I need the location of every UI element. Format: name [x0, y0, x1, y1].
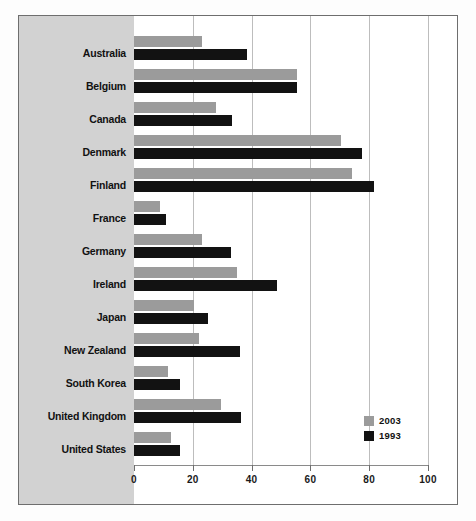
bar-group	[134, 267, 457, 291]
bar-australia-2003[interactable]	[134, 36, 202, 47]
category-label-germany: Germany	[82, 245, 126, 257]
bar-united-states-1993[interactable]	[134, 445, 180, 456]
bar-group	[134, 234, 457, 258]
bar-south-korea-2003[interactable]	[134, 366, 168, 377]
bar-group	[134, 201, 457, 225]
bar-united-states-2003[interactable]	[134, 432, 171, 443]
category-label-new-zealand: New Zealand	[64, 344, 126, 356]
x-tick-label-100: 100	[419, 474, 437, 485]
x-axis-baseline	[134, 465, 428, 466]
legend-label-1993: 1993	[379, 430, 401, 441]
bar-ireland-1993[interactable]	[134, 280, 277, 291]
x-tick-80	[369, 465, 370, 471]
x-tick-label-60: 60	[305, 474, 317, 485]
bar-france-1993[interactable]	[134, 214, 166, 225]
bar-finland-2003[interactable]	[134, 168, 352, 179]
x-tick-label-0: 0	[131, 474, 137, 485]
bar-denmark-1993[interactable]	[134, 148, 362, 159]
bar-belgium-1993[interactable]	[134, 82, 297, 93]
bar-new-zealand-2003[interactable]	[134, 333, 199, 344]
bar-group	[134, 69, 457, 93]
category-label-japan: Japan	[97, 311, 126, 323]
bar-group	[134, 333, 457, 357]
legend-swatch-2003-icon	[364, 416, 374, 426]
bar-united-kingdom-1993[interactable]	[134, 412, 241, 423]
bar-australia-1993[interactable]	[134, 49, 247, 60]
x-tick-label-20: 20	[187, 474, 199, 485]
bar-south-korea-1993[interactable]	[134, 379, 180, 390]
bar-germany-2003[interactable]	[134, 234, 202, 245]
category-label-canada: Canada	[89, 113, 126, 125]
bar-ireland-2003[interactable]	[134, 267, 237, 278]
chart-figure: AustraliaBelgiumCanadaDenmarkFinlandFran…	[0, 0, 476, 521]
bar-group	[134, 102, 457, 126]
x-tick-20	[193, 465, 194, 471]
category-label-south-korea: South Korea	[66, 377, 126, 389]
category-label-belgium: Belgium	[86, 80, 126, 92]
bar-finland-1993[interactable]	[134, 181, 374, 192]
category-label-panel: AustraliaBelgiumCanadaDenmarkFinlandFran…	[18, 15, 134, 505]
bar-group	[134, 168, 457, 192]
bar-group	[134, 135, 457, 159]
category-label-australia: Australia	[83, 47, 126, 59]
category-label-united-states: United States	[62, 443, 127, 455]
x-tick-40	[252, 465, 253, 471]
bar-denmark-2003[interactable]	[134, 135, 341, 146]
category-label-finland: Finland	[90, 179, 126, 191]
category-label-united-kingdom: United Kingdom	[48, 410, 126, 422]
x-tick-label-80: 80	[363, 474, 375, 485]
x-tick-100	[428, 465, 429, 471]
bar-group	[134, 36, 457, 60]
bar-germany-1993[interactable]	[134, 247, 231, 258]
legend-item-2003[interactable]: 2003	[364, 414, 422, 427]
bar-belgium-2003[interactable]	[134, 69, 297, 80]
bar-canada-1993[interactable]	[134, 115, 232, 126]
legend-label-2003: 2003	[379, 415, 401, 426]
bar-canada-2003[interactable]	[134, 102, 216, 113]
category-label-denmark: Denmark	[82, 146, 126, 158]
x-tick-label-40: 40	[246, 474, 258, 485]
bar-new-zealand-1993[interactable]	[134, 346, 240, 357]
bar-group	[134, 366, 457, 390]
category-label-ireland: Ireland	[93, 278, 126, 290]
bar-japan-2003[interactable]	[134, 300, 194, 311]
legend: 2003 1993	[364, 414, 422, 444]
bar-france-2003[interactable]	[134, 201, 160, 212]
x-tick-0	[134, 465, 135, 471]
x-tick-60	[310, 465, 311, 471]
bar-united-kingdom-2003[interactable]	[134, 399, 221, 410]
category-label-france: France	[93, 212, 126, 224]
legend-swatch-1993-icon	[364, 431, 374, 441]
bar-japan-1993[interactable]	[134, 313, 208, 324]
legend-item-1993[interactable]: 1993	[364, 429, 422, 442]
bar-group	[134, 300, 457, 324]
